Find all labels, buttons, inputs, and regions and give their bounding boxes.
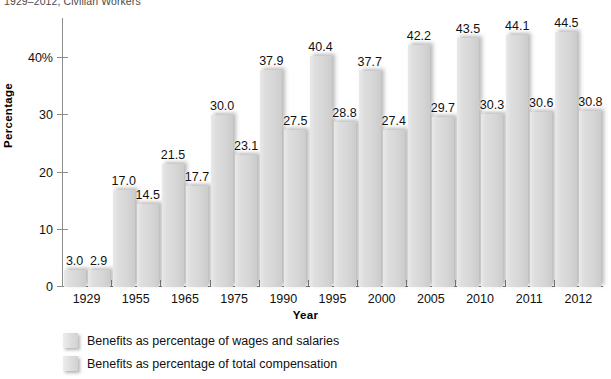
x-axis-separator-tick <box>210 280 211 287</box>
x-axis-tick-label: 1965 <box>160 292 209 306</box>
bar-value-label: 30.3 <box>480 98 504 112</box>
bar[interactable]: 3.0 <box>64 270 86 287</box>
bar-group: 44.130.6 <box>506 18 552 287</box>
bar[interactable]: 44.1 <box>506 35 528 287</box>
bar-group: 37.927.5 <box>260 18 306 287</box>
bar[interactable]: 44.5 <box>555 32 577 287</box>
bar-group: 17.014.5 <box>113 18 159 287</box>
bar[interactable]: 29.7 <box>432 117 454 287</box>
bar-value-label: 3.0 <box>66 254 83 268</box>
bar-group: 42.229.7 <box>408 18 454 287</box>
bar-group: 40.428.8 <box>310 18 356 287</box>
bar[interactable]: 17.0 <box>113 190 135 287</box>
legend-swatch <box>63 333 78 348</box>
x-axis-title: Year <box>0 309 611 321</box>
bar[interactable]: 30.0 <box>211 115 233 287</box>
bar[interactable]: 40.4 <box>310 56 332 287</box>
bar-value-label: 17.0 <box>112 174 136 188</box>
x-axis-tick-label: 2011 <box>505 292 554 306</box>
bar[interactable]: 14.5 <box>137 204 159 287</box>
x-axis-tick-label: 1955 <box>111 292 160 306</box>
y-axis-title: Percentage <box>2 83 14 148</box>
legend-item[interactable]: Benefits as percentage of total compensa… <box>63 352 339 375</box>
x-axis-tick-label: 2012 <box>554 292 603 306</box>
legend-label: Benefits as percentage of wages and sala… <box>87 334 339 348</box>
bar[interactable]: 27.5 <box>284 130 306 287</box>
bar-value-label: 40.4 <box>308 40 332 54</box>
bar-value-label: 23.1 <box>234 139 258 153</box>
bar[interactable]: 37.9 <box>260 70 282 287</box>
bar-value-label: 14.5 <box>136 188 160 202</box>
bar-value-label: 2.9 <box>90 254 107 268</box>
legend-label: Benefits as percentage of total compensa… <box>87 357 337 371</box>
plot-area: 010203040% 3.02.917.014.521.517.730.023.… <box>62 18 603 287</box>
x-axis-separator-tick <box>455 280 456 287</box>
bar[interactable]: 37.7 <box>359 71 381 287</box>
bar-value-label: 27.4 <box>382 114 406 128</box>
bar-value-label: 30.6 <box>529 96 553 110</box>
y-axis-tick-label: 30 <box>39 108 53 122</box>
x-axis-tick-label: 2000 <box>357 292 406 306</box>
bar[interactable]: 28.8 <box>334 122 356 287</box>
legend-item[interactable]: Benefits as percentage of wages and sala… <box>63 329 339 352</box>
bar-value-label: 28.8 <box>332 106 356 120</box>
bar-group: 21.517.7 <box>162 18 208 287</box>
x-axis-separator-tick <box>111 280 112 287</box>
bar-group: 43.530.3 <box>457 18 503 287</box>
bar[interactable]: 30.8 <box>579 111 601 287</box>
bar-value-label: 29.7 <box>431 101 455 115</box>
bar-value-label: 37.9 <box>259 54 283 68</box>
x-axis-separator-tick <box>308 280 309 287</box>
bar[interactable]: 43.5 <box>457 38 479 287</box>
chart-title: 1929–2012, Civilian Workers <box>4 0 141 7</box>
x-axis-tick-label: 1975 <box>210 292 259 306</box>
x-axis-tick-label: 2005 <box>406 292 455 306</box>
bar-value-label: 43.5 <box>456 22 480 36</box>
bar-value-label: 27.5 <box>283 114 307 128</box>
bar[interactable]: 30.3 <box>481 114 503 287</box>
bar[interactable]: 27.4 <box>383 130 405 287</box>
bar-value-label: 21.5 <box>161 148 185 162</box>
bar-value-label: 44.1 <box>505 19 529 33</box>
x-axis-tick-label: 1990 <box>259 292 308 306</box>
bar-group: 44.530.8 <box>555 18 601 287</box>
bar[interactable]: 21.5 <box>162 164 184 287</box>
x-axis-tick-label: 2010 <box>455 292 504 306</box>
y-axis-tick-label: 40% <box>28 51 53 65</box>
bar-value-label: 42.2 <box>407 29 431 43</box>
bar-value-label: 17.7 <box>185 170 209 184</box>
x-axis-separator-tick <box>160 280 161 287</box>
bar-value-label: 37.7 <box>358 55 382 69</box>
legend: Benefits as percentage of wages and sala… <box>63 329 339 375</box>
legend-swatch <box>63 356 78 371</box>
x-axis-tick-label: 1995 <box>308 292 357 306</box>
x-axis-separator-tick <box>505 280 506 287</box>
x-axis-separator-tick <box>554 280 555 287</box>
bar-value-label: 30.0 <box>210 99 234 113</box>
x-axis-separator-tick <box>357 280 358 287</box>
bar[interactable]: 2.9 <box>88 270 110 287</box>
x-axis-separator-tick <box>406 280 407 287</box>
bar[interactable]: 23.1 <box>235 155 257 287</box>
x-axis-tick-label: 1929 <box>62 292 111 306</box>
y-axis-tick-label: 10 <box>39 223 53 237</box>
bar-group: 3.02.9 <box>64 18 110 287</box>
y-axis-tick-label: 0 <box>46 280 53 294</box>
bar-value-label: 30.8 <box>578 95 602 109</box>
y-axis-tick-label: 20 <box>39 166 53 180</box>
bar-value-label: 44.5 <box>554 16 578 30</box>
bar-group: 30.023.1 <box>211 18 257 287</box>
bar-group: 37.727.4 <box>359 18 405 287</box>
bar[interactable]: 42.2 <box>408 45 430 287</box>
bar[interactable]: 30.6 <box>530 112 552 287</box>
x-axis-separator-tick <box>259 280 260 287</box>
bar[interactable]: 17.7 <box>186 186 208 287</box>
